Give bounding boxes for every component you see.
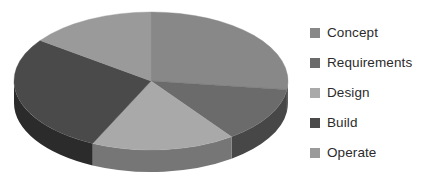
legend-item-build[interactable]: Build [310,108,440,138]
legend-item-operate[interactable]: Operate [310,138,440,168]
pie-chart-svg [0,0,300,188]
legend-label-operate: Operate [327,146,376,160]
legend-swatch-design [310,88,320,98]
legend-label-build: Build [327,116,358,130]
legend-swatch-operate [310,148,320,158]
legend-swatch-build [310,118,320,128]
pie-chart-canvas [0,0,300,188]
legend-label-design: Design [327,86,370,100]
legend-swatch-requirements [310,58,320,68]
legend-swatch-concept [310,28,320,38]
legend-item-concept[interactable]: Concept [310,18,440,48]
legend-label-requirements: Requirements [327,56,412,70]
legend-label-concept: Concept [327,26,378,40]
pie-chart-figure: Concept Requirements Design Build Operat… [0,0,440,188]
chart-legend: Concept Requirements Design Build Operat… [310,18,440,174]
pie-slice-concept [151,12,288,90]
legend-item-design[interactable]: Design [310,78,440,108]
legend-item-requirements[interactable]: Requirements [310,48,440,78]
